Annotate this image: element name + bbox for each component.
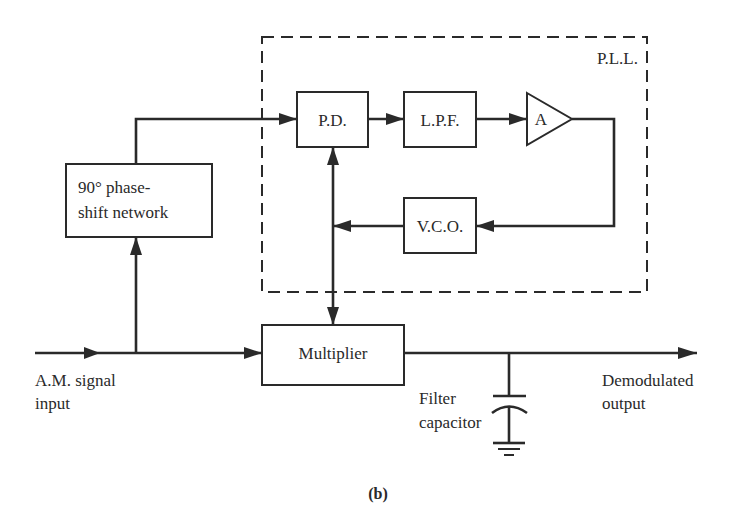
vco-input-arrow-icon bbox=[476, 220, 494, 232]
amplifier-label: A bbox=[535, 110, 548, 129]
pll-label: P.L.L. bbox=[597, 49, 638, 68]
multiplier-label: Multiplier bbox=[299, 344, 368, 363]
phase-detector-label: P.D. bbox=[318, 111, 346, 130]
phase-shift-label-line1: 90° phase- bbox=[78, 178, 151, 197]
low-pass-filter-block: L.P.F. bbox=[404, 92, 476, 147]
input-label-line1: A.M. signal bbox=[35, 371, 116, 390]
vco-label: V.C.O. bbox=[417, 217, 463, 236]
phase-shift-input-arrow-icon bbox=[130, 237, 142, 255]
output-label-line1: Demodulated bbox=[602, 371, 694, 390]
vco-block: V.C.O. bbox=[404, 198, 476, 253]
phase-shift-label-line2: shift network bbox=[78, 203, 169, 222]
pd-bus-arrow-icon bbox=[327, 147, 339, 165]
multiplier-block: Multiplier bbox=[262, 325, 404, 385]
amp-input-arrow-icon bbox=[509, 113, 527, 125]
figure-caption: (b) bbox=[368, 485, 388, 503]
vco-output-arrow-icon bbox=[333, 220, 351, 232]
filter-capacitor-symbol bbox=[492, 353, 527, 455]
multiplier-bus-arrow-icon bbox=[327, 307, 339, 325]
amplifier-block: A bbox=[527, 93, 572, 145]
multiplier-input-arrow-icon bbox=[244, 347, 262, 359]
capacitor-label-line2: capacitor bbox=[419, 413, 482, 432]
pll-am-demodulator-diagram: P.L.L. P.D. L.P.F. A V.C.O. 90° phase- s… bbox=[0, 0, 756, 526]
pd-input-arrow-icon bbox=[279, 113, 297, 125]
capacitor-label-line1: Filter bbox=[419, 389, 456, 408]
output-label-line2: output bbox=[602, 394, 646, 413]
input-arrow-icon bbox=[84, 347, 100, 359]
phase-detector-block: P.D. bbox=[297, 92, 368, 147]
low-pass-filter-label: L.P.F. bbox=[421, 111, 460, 130]
phase-shift-network-block: 90° phase- shift network bbox=[66, 164, 212, 237]
lpf-input-arrow-icon bbox=[386, 113, 404, 125]
phase-shift-to-pd-wire bbox=[136, 119, 297, 164]
input-label-line2: input bbox=[35, 394, 70, 413]
output-arrow-icon bbox=[678, 347, 697, 359]
